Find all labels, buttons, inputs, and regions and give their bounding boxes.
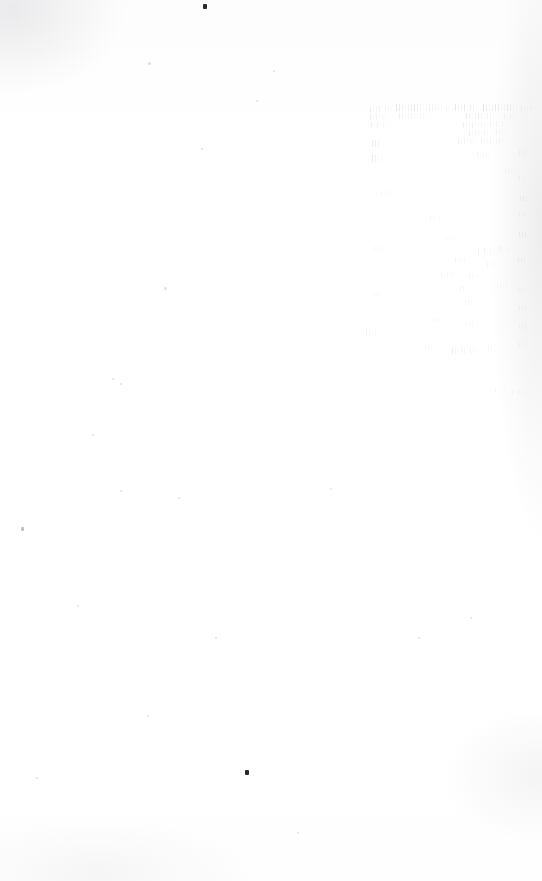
faded-text-line: [366, 330, 378, 337]
scan-dust: [256, 100, 258, 102]
scan-dust: [120, 490, 122, 492]
scan-dust: [148, 62, 151, 65]
faded-text-line: [488, 346, 498, 351]
scan-dust: [201, 148, 203, 150]
faded-text-line: [518, 288, 526, 293]
faded-text-line: [519, 232, 528, 237]
faded-text-line: [372, 140, 381, 147]
faded-text-line: [469, 274, 480, 279]
scan-dust: [215, 637, 217, 639]
faded-text-line: [372, 155, 383, 162]
faded-text-line: [519, 176, 526, 181]
faded-text-line: [381, 190, 395, 195]
faded-text-line: [465, 300, 474, 305]
faded-text-line: [430, 216, 442, 221]
faded-text-line: [396, 104, 442, 111]
speck-left-margin: [21, 527, 24, 531]
faded-text-line: [466, 322, 475, 327]
faded-text-line: [490, 121, 506, 127]
faded-text-line: [466, 113, 496, 119]
scan-dust: [470, 617, 472, 619]
faded-text-line: [455, 104, 477, 111]
faded-text-line: [495, 388, 507, 393]
scan-dust: [36, 777, 38, 779]
speck-lower: [245, 770, 249, 775]
faded-text-line: [487, 262, 497, 267]
faded-text-line: [521, 106, 533, 111]
faded-text-line: [481, 138, 503, 144]
faded-text-line: [374, 246, 384, 251]
scan-dust: [120, 383, 122, 385]
faded-text-line: [496, 130, 508, 135]
scan-dust: [147, 715, 149, 717]
faded-text-line: [460, 286, 470, 291]
scan-dust: [178, 497, 180, 499]
faded-text-line: [441, 272, 455, 277]
faded-text-line: [499, 246, 511, 251]
faded-text-line: [399, 113, 429, 119]
faded-text-line: [370, 114, 388, 120]
faded-text-line: [455, 258, 467, 263]
faded-text-line: [433, 318, 445, 323]
faded-text-line: [497, 284, 509, 289]
faded-text-line: [483, 104, 517, 111]
faded-text-line: [463, 122, 487, 128]
faded-text-line: [504, 114, 518, 119]
faded-text-line: [518, 258, 527, 263]
scan-dust: [330, 488, 332, 490]
faded-text-line: [519, 150, 527, 155]
faded-text-line: [512, 390, 528, 395]
scanned-page: almost entirely blank; ink faded to near…: [0, 0, 542, 881]
faded-text-line: [519, 212, 527, 217]
faded-text-line: [519, 306, 527, 311]
faded-text-line: [371, 122, 387, 128]
faded-text-line: [519, 324, 527, 329]
faded-text-line: [374, 292, 382, 297]
faded-text-line: [505, 168, 515, 173]
faded-text-line: [477, 152, 491, 158]
faded-text-line: [425, 344, 435, 349]
scan-dust: [112, 378, 114, 380]
scan-dust: [297, 832, 299, 834]
paper-background: [0, 0, 542, 881]
scan-dust: [418, 637, 420, 639]
scan-dust: [77, 605, 79, 607]
scan-dust: [273, 70, 275, 72]
faded-text-line: [469, 130, 489, 136]
faded-text-line: [370, 106, 392, 112]
scan-dust: [164, 287, 167, 290]
faded-text-line: [446, 236, 456, 241]
faded-text-line: [520, 196, 528, 201]
faded-text-line: [452, 348, 478, 354]
faded-text-line: [478, 248, 494, 254]
faded-text-line: [519, 342, 527, 347]
faded-text-line: [446, 106, 452, 112]
faded-text-line: [458, 138, 476, 144]
speck-top: [203, 4, 207, 9]
scan-dust: [92, 434, 94, 436]
